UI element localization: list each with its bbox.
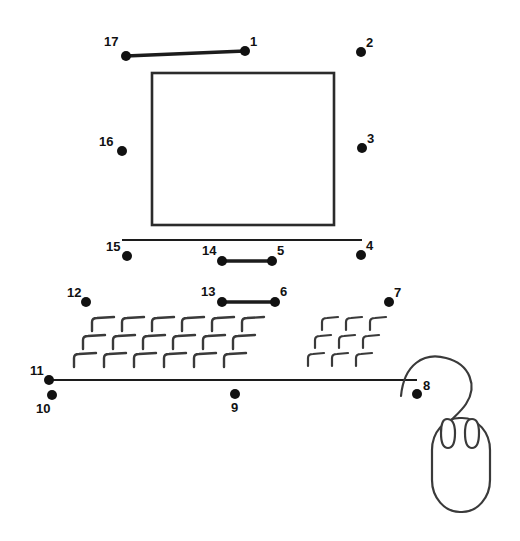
- dot-label-13: 13: [201, 285, 215, 298]
- dot-label-4: 4: [366, 239, 373, 252]
- keyboard-key: [194, 353, 216, 367]
- keyboard-key: [113, 335, 135, 349]
- monitor-screen-outline: [152, 73, 334, 225]
- dot-label-10: 10: [36, 402, 50, 415]
- keyboard-key: [224, 353, 246, 367]
- dot-13[interactable]: [217, 297, 227, 307]
- segment-17-to-1: [126, 51, 245, 56]
- dot-label-9: 9: [231, 401, 238, 414]
- dot-2[interactable]: [356, 47, 366, 57]
- keyboard-key: [173, 335, 195, 349]
- keyboard-key: [83, 335, 105, 349]
- dot-label-11: 11: [30, 364, 44, 377]
- keyboard-key: [308, 353, 324, 366]
- dot-3[interactable]: [357, 143, 367, 153]
- keyboard-key: [346, 317, 362, 330]
- keyboard-key: [242, 317, 264, 331]
- dot-label-15: 15: [106, 240, 120, 253]
- keyboard-key: [104, 353, 126, 367]
- dot-1[interactable]: [240, 46, 250, 56]
- dot-label-5: 5: [277, 244, 284, 257]
- keyboard-key: [143, 335, 165, 349]
- dot-8[interactable]: [412, 389, 422, 399]
- dot-14[interactable]: [217, 256, 227, 266]
- connect-the-dots-page: 1234567891011121314151617: [0, 0, 520, 541]
- keyboard-key: [363, 335, 379, 348]
- dot-label-6: 6: [280, 285, 287, 298]
- keyboard-main-keys: [74, 317, 264, 367]
- mouse-left-button: [441, 419, 455, 448]
- keyboard-key: [122, 317, 144, 331]
- dot-6[interactable]: [270, 297, 280, 307]
- keyboard-key: [182, 317, 204, 331]
- dot-9[interactable]: [230, 389, 240, 399]
- keyboard-key: [203, 335, 225, 349]
- keyboard-key: [356, 353, 372, 366]
- dot-label-7: 7: [394, 286, 401, 299]
- dot-12[interactable]: [81, 297, 91, 307]
- dot-label-1: 1: [250, 35, 257, 48]
- dot-5[interactable]: [267, 256, 277, 266]
- dot-16[interactable]: [117, 146, 127, 156]
- dot-label-14: 14: [202, 244, 216, 257]
- dot-label-8: 8: [423, 379, 430, 392]
- dot-label-17: 17: [104, 35, 118, 48]
- dot-4[interactable]: [356, 250, 366, 260]
- dot-10[interactable]: [47, 390, 57, 400]
- dot-17[interactable]: [121, 51, 131, 61]
- keyboard-key: [332, 353, 348, 366]
- dot-7[interactable]: [384, 297, 394, 307]
- keyboard-key: [212, 317, 234, 331]
- keyboard-key: [92, 317, 114, 331]
- dot-label-3: 3: [367, 132, 374, 145]
- keyboard-key: [339, 335, 355, 348]
- keyboard-key: [322, 317, 338, 330]
- keyboard-key: [134, 353, 156, 367]
- keyboard-key: [233, 335, 255, 349]
- dot-11[interactable]: [44, 375, 54, 385]
- keyboard-key: [370, 317, 386, 330]
- dot-label-16: 16: [99, 135, 113, 148]
- puzzle-artwork: [0, 0, 520, 541]
- keyboard-key: [152, 317, 174, 331]
- dot-label-2: 2: [366, 36, 373, 49]
- keyboard-key: [164, 353, 186, 367]
- keyboard-key: [315, 335, 331, 348]
- mouse-right-button: [465, 419, 479, 448]
- dot-15[interactable]: [122, 251, 132, 261]
- keyboard-numeric-keypad-keys: [308, 317, 386, 366]
- keyboard-key: [74, 353, 96, 367]
- dot-label-12: 12: [67, 286, 81, 299]
